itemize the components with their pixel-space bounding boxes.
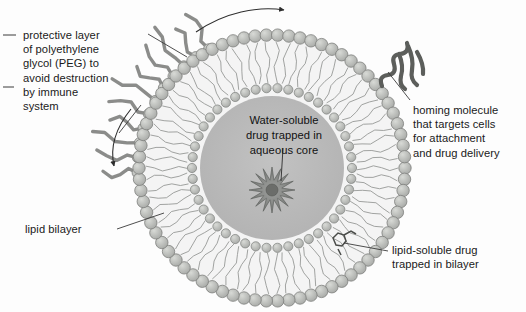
water-soluble-drug-star [249,167,295,213]
homing-molecule-label: homing molecule that targets cells for a… [413,103,525,160]
peg-label: protective layer of polyethylene glycol … [23,28,143,113]
lipid-bilayer-label: lipid bilayer [25,222,115,236]
aqueous-core-label: Water-soluble drug trapped in aqueous co… [232,113,336,158]
lipid-soluble-drug-label: lipid-soluble drug trapped in bilayer [392,243,520,271]
